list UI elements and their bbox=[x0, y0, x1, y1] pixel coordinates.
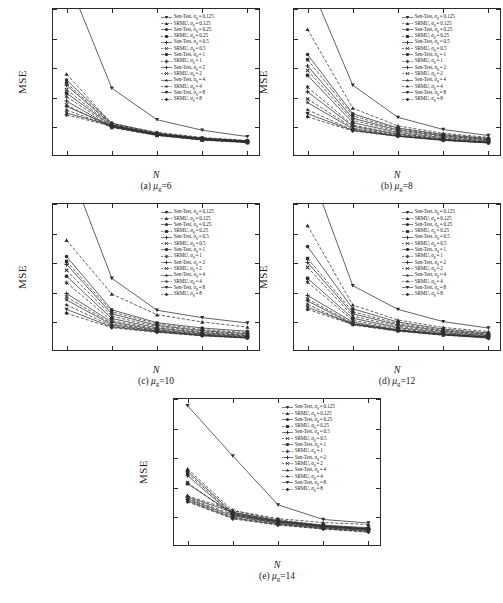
legend-marker-icon bbox=[402, 273, 413, 278]
y-axis-label: MSE bbox=[257, 70, 269, 94]
series-marker bbox=[306, 69, 309, 72]
legend-marker-icon bbox=[282, 405, 293, 410]
legend: Sen-Test, σg = 0.125 SRMU, σg = 0.125 Se… bbox=[161, 209, 214, 297]
series-marker bbox=[306, 53, 310, 57]
series-marker bbox=[64, 99, 68, 103]
series-marker bbox=[65, 104, 69, 108]
series-marker bbox=[65, 303, 69, 307]
legend-marker-icon bbox=[402, 78, 413, 83]
subplot-a: MSE0.00.20.40.60.81.01015202530 Sen-Test… bbox=[14, 8, 262, 206]
legend-marker-icon bbox=[282, 480, 293, 485]
y-axis-label: MSE bbox=[16, 70, 28, 94]
legend-marker-icon bbox=[402, 241, 413, 246]
legend-marker-icon bbox=[282, 424, 293, 429]
legend-marker-icon bbox=[282, 474, 293, 479]
series-layer bbox=[53, 9, 260, 156]
series-marker bbox=[65, 78, 69, 82]
series-marker bbox=[64, 238, 68, 242]
legend: Sen-Test, σg = 0.125 SRMU, σg = 0.125 Se… bbox=[161, 14, 214, 102]
legend-label: SRMU, σg = 8 bbox=[174, 94, 214, 104]
legend-label: SRMU, σg = 8 bbox=[174, 289, 214, 299]
legend-marker-icon bbox=[282, 487, 293, 492]
x-axis-label: N bbox=[293, 364, 501, 375]
legend-marker-icon bbox=[402, 216, 413, 221]
legend-item: SRMU, σg = 8 bbox=[161, 291, 214, 297]
legend-marker-icon bbox=[161, 71, 172, 76]
legend-marker-icon bbox=[402, 34, 413, 39]
subplot-caption-c: (c) μg=10 bbox=[52, 376, 260, 387]
legend-marker-icon bbox=[282, 417, 293, 422]
legend-marker-icon bbox=[161, 254, 172, 259]
series-line bbox=[308, 225, 489, 331]
legend-marker-icon bbox=[161, 229, 172, 234]
legend-item: SRMU, σg = 8 bbox=[282, 486, 335, 492]
series-marker bbox=[351, 303, 355, 307]
legend-marker-icon bbox=[402, 27, 413, 32]
legend-label: SRMU, σg = 8 bbox=[415, 289, 455, 299]
legend-marker-icon bbox=[161, 216, 172, 221]
series-marker bbox=[65, 108, 69, 112]
legend-marker-icon bbox=[402, 266, 413, 271]
series-marker bbox=[64, 311, 68, 315]
plot-area-e: 0.00.20.40.60.81.01015202530 Sen-Test, σ… bbox=[173, 398, 381, 546]
plot-area-d: 0.00.20.40.60.81.01015202530 Sen-Test, σ… bbox=[293, 203, 501, 351]
legend: Sen-Test, σg = 0.125 SRMU, σg = 0.125 Se… bbox=[402, 14, 455, 102]
series-marker bbox=[306, 266, 309, 269]
legend-marker-icon bbox=[161, 15, 172, 20]
legend-marker-icon bbox=[161, 235, 172, 240]
legend-marker-icon bbox=[282, 436, 293, 441]
legend-marker-icon bbox=[161, 46, 172, 51]
series-marker bbox=[64, 72, 68, 76]
legend-marker-icon bbox=[402, 40, 413, 45]
subplot-b: MSE0.00.20.40.60.81.01015202530 Sen-Test… bbox=[255, 8, 503, 206]
series-layer bbox=[294, 204, 501, 351]
series-layer bbox=[53, 204, 260, 351]
legend-marker-icon bbox=[282, 430, 293, 435]
subplot-caption-e: (e) μg=14 bbox=[173, 571, 381, 582]
plot-area-a: 0.00.20.40.60.81.01015202530 Sen-Test, σ… bbox=[52, 8, 260, 156]
legend-marker-icon bbox=[161, 27, 172, 32]
series-marker bbox=[351, 284, 355, 288]
y-axis-label: MSE bbox=[16, 265, 28, 289]
legend-marker-icon bbox=[161, 241, 172, 246]
legend-marker-icon bbox=[282, 461, 293, 466]
legend-marker-icon bbox=[402, 292, 413, 297]
series-line bbox=[308, 29, 489, 137]
legend-item: SRMU, σg = 8 bbox=[402, 96, 455, 102]
x-axis-label: N bbox=[173, 559, 381, 570]
legend-marker-icon bbox=[161, 78, 172, 83]
subplot-e: MSE0.00.20.40.60.81.01015202530 Sen-Test… bbox=[135, 398, 383, 596]
series-marker bbox=[245, 325, 249, 329]
x-axis-label: N bbox=[52, 169, 260, 180]
legend-marker-icon bbox=[161, 59, 172, 64]
legend-marker-icon bbox=[402, 65, 413, 70]
legend-label: SRMU, σg = 8 bbox=[295, 484, 335, 494]
legend-marker-icon bbox=[282, 442, 293, 447]
legend-marker-icon bbox=[402, 235, 413, 240]
legend-marker-icon bbox=[161, 222, 172, 227]
subplot-caption-d: (d) μg=12 bbox=[293, 376, 501, 387]
legend: Sen-Test, σg = 0.125 SRMU, σg = 0.125 Se… bbox=[282, 404, 335, 492]
legend-marker-icon bbox=[282, 449, 293, 454]
legend: Sen-Test, σg = 0.125 SRMU, σg = 0.125 Se… bbox=[402, 209, 455, 297]
series-marker bbox=[306, 257, 309, 260]
legend-marker-icon bbox=[282, 468, 293, 473]
series-layer bbox=[294, 9, 501, 156]
series-line bbox=[67, 8, 248, 137]
series-marker bbox=[64, 308, 68, 312]
series-marker bbox=[65, 255, 69, 259]
legend-marker-icon bbox=[402, 52, 413, 57]
legend-marker-icon bbox=[161, 266, 172, 271]
legend-label: SRMU, σg = 8 bbox=[415, 94, 455, 104]
legend-marker-icon bbox=[282, 411, 293, 416]
legend-marker-icon bbox=[402, 279, 413, 284]
series-marker bbox=[305, 293, 309, 297]
series-layer bbox=[174, 399, 381, 546]
series-marker bbox=[306, 302, 310, 306]
legend-marker-icon bbox=[402, 15, 413, 20]
x-axis-label: N bbox=[293, 169, 501, 180]
legend-marker-icon bbox=[161, 52, 172, 57]
legend-marker-icon bbox=[161, 84, 172, 89]
subplot-d: MSE0.00.20.40.60.81.01015202530 Sen-Test… bbox=[255, 203, 503, 401]
series-marker bbox=[306, 97, 309, 100]
